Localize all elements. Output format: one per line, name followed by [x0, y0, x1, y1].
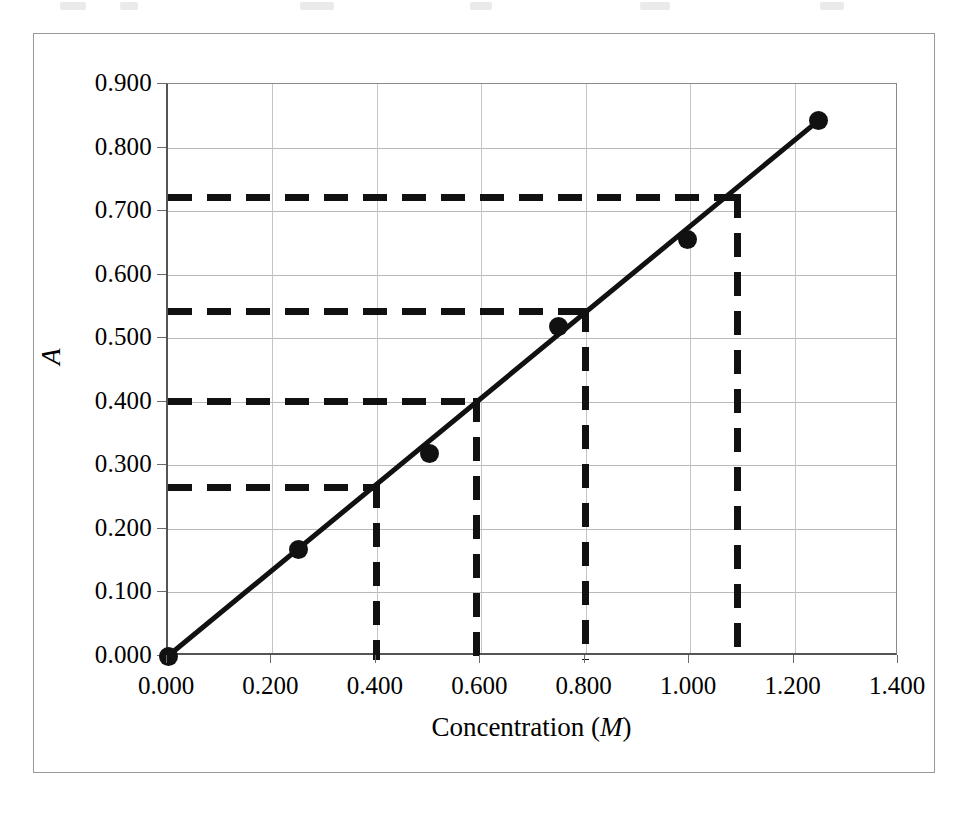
y-axis-tick-mark [157, 591, 166, 592]
x-axis-tick-mark [688, 655, 689, 663]
x-axis-title-suffix: ) [623, 712, 632, 742]
x-axis-tick-mark [793, 655, 794, 663]
y-axis-tick-mark [157, 274, 166, 275]
y-axis-tick-label: 0.300 [56, 451, 152, 476]
x-axis-tick-label: 1.000 [628, 673, 748, 698]
x-axis-tick-label: 1.400 [837, 673, 957, 698]
x-axis-tick-mark [166, 655, 167, 663]
y-axis-tick-label: 0.900 [56, 70, 152, 95]
scan-artifact-strip [0, 0, 980, 14]
y-axis-tick-label: 0.600 [56, 261, 152, 286]
x-axis-tick-label: 0.800 [524, 673, 644, 698]
y-axis-tick-label: 0.200 [56, 515, 152, 540]
best-fit-line [168, 84, 899, 656]
data-point-marker [809, 111, 828, 130]
y-axis-title: A [38, 349, 65, 366]
x-axis-tick-label: 0.600 [419, 673, 539, 698]
x-axis-title-prefix: Concentration ( [431, 712, 600, 742]
figure-canvas: 0.0000.1000.2000.3000.4000.5000.6000.700… [0, 0, 980, 826]
x-axis-tick-mark [584, 655, 585, 663]
x-axis-title-symbol: M [600, 712, 623, 742]
y-axis-tick-mark [157, 83, 166, 84]
data-point-marker [159, 647, 178, 666]
y-axis-tick-mark [157, 464, 166, 465]
y-axis-tick-mark [157, 528, 166, 529]
y-axis-tick-label: 0.000 [56, 642, 152, 667]
x-axis-tick-label: 0.400 [315, 673, 435, 698]
x-axis-tick-label: 1.200 [733, 673, 853, 698]
x-axis-tick-label: 0.200 [210, 673, 330, 698]
x-axis-tick-mark [897, 655, 898, 663]
y-axis-tick-label: 0.800 [56, 134, 152, 159]
x-axis-tick-mark [479, 655, 480, 663]
data-point-marker [420, 444, 439, 463]
y-axis-tick-label: 0.500 [56, 324, 152, 349]
plot-area [166, 83, 897, 655]
x-axis-tick-mark [270, 655, 271, 663]
x-axis-tick-mark [375, 655, 376, 663]
y-axis-tick-mark [157, 210, 166, 211]
y-axis-tick-label: 0.100 [56, 578, 152, 603]
y-axis-tick-label: 0.700 [56, 197, 152, 222]
x-axis-title: Concentration (M) [166, 712, 897, 742]
y-axis-tick-mark [157, 147, 166, 148]
data-series [168, 84, 896, 653]
y-axis-tick-mark [157, 401, 166, 402]
y-axis-tick-mark [157, 337, 166, 338]
x-axis-tick-label: 0.000 [106, 673, 226, 698]
y-axis-tick-label: 0.400 [56, 388, 152, 413]
